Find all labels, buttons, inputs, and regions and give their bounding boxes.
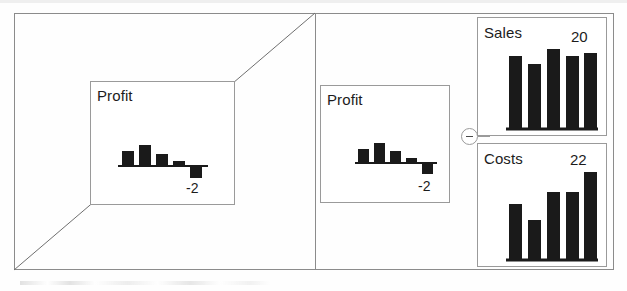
sales-chart-title: Sales [484, 25, 522, 40]
profit-negative-label-middle: -2 [418, 179, 430, 193]
profit-sparkline-middle [355, 140, 437, 182]
scan-edge-artifact [0, 0, 627, 3]
minus-operator-icon [461, 128, 478, 145]
operator-connector-upper [478, 136, 490, 137]
costs-chart-title: Costs [484, 151, 523, 166]
sales-sparkline [506, 42, 598, 132]
figure-root: Profit -2 Profit -2 Sales 20 [0, 0, 627, 291]
profit-negative-label-left: -2 [186, 181, 198, 195]
costs-sparkline [506, 168, 598, 263]
profit-chart-title-middle: Profit [327, 92, 363, 107]
costs-end-value-label: 22 [570, 152, 587, 167]
profit-chart-title-left: Profit [97, 88, 133, 103]
scan-smudge-artifact [20, 281, 270, 285]
